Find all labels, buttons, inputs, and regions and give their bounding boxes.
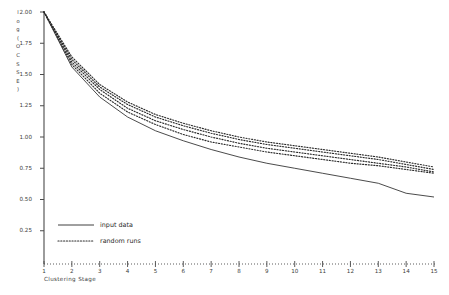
x-tick-label: 1: [37, 268, 51, 274]
x-tick-label: 4: [121, 268, 135, 274]
y-tick-label: 0.75: [6, 165, 32, 171]
x-tick-label: 7: [204, 268, 218, 274]
legend-label: input data: [100, 221, 133, 229]
x-tick-label: 9: [260, 268, 274, 274]
y-tick-label: 0.50: [6, 196, 32, 202]
chart-plot-area: [0, 0, 449, 295]
y-tick-label: 2.00: [6, 9, 32, 15]
y-tick-label: 1.00: [6, 134, 32, 140]
legend-label: random runs: [100, 237, 141, 245]
x-tick-label: 14: [399, 268, 413, 274]
x-tick-label: 13: [371, 268, 385, 274]
series-random-runs-line: [44, 12, 434, 170]
y-tick-label: 0.25: [6, 227, 32, 233]
y-tick-label: 1.25: [6, 102, 32, 108]
x-tick-label: 6: [176, 268, 190, 274]
x-tick-label: 10: [288, 268, 302, 274]
y-tick-label: 1.75: [6, 40, 32, 46]
x-tick-label: 12: [343, 268, 357, 274]
series-random-runs-line: [44, 12, 434, 173]
x-tick-label: 15: [427, 268, 441, 274]
y-tick-label: 1.50: [6, 71, 32, 77]
series-random-runs-line: [44, 12, 434, 172]
series-input-data-line: [44, 12, 434, 197]
x-tick-label: 2: [65, 268, 79, 274]
x-axis-label: Clustering Stage: [44, 276, 96, 282]
x-tick-label: 3: [93, 268, 107, 274]
x-tick-label: 8: [232, 268, 246, 274]
x-tick-label: 11: [316, 268, 330, 274]
chart-figure: l o g ( O C S S E ) 0.250.500.751.001.25…: [0, 0, 449, 295]
x-tick-label: 5: [148, 268, 162, 274]
